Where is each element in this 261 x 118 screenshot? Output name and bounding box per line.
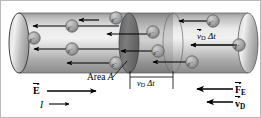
area-a-label: Area A bbox=[87, 73, 114, 83]
electron bbox=[186, 56, 198, 68]
efield-label: E bbox=[33, 86, 40, 96]
electron bbox=[110, 12, 122, 24]
conductor-cylinder bbox=[9, 13, 258, 73]
electron bbox=[207, 15, 219, 27]
electron bbox=[152, 45, 164, 57]
electron bbox=[66, 43, 78, 55]
electron bbox=[110, 57, 122, 69]
current-label: I bbox=[40, 101, 43, 111]
electron bbox=[28, 32, 40, 44]
physics-figure-drift-velocity: e− e− e− e− e− e− e− e− e− e− Area A vD … bbox=[0, 0, 261, 118]
drift-velocity-label: vD bbox=[235, 99, 245, 111]
cylinder-left-cap bbox=[9, 13, 29, 73]
drift-distance-top-label: vD Δt bbox=[197, 32, 216, 42]
electron bbox=[147, 26, 159, 38]
electron bbox=[66, 20, 78, 32]
drift-distance-label: vD Δt bbox=[137, 79, 155, 88]
